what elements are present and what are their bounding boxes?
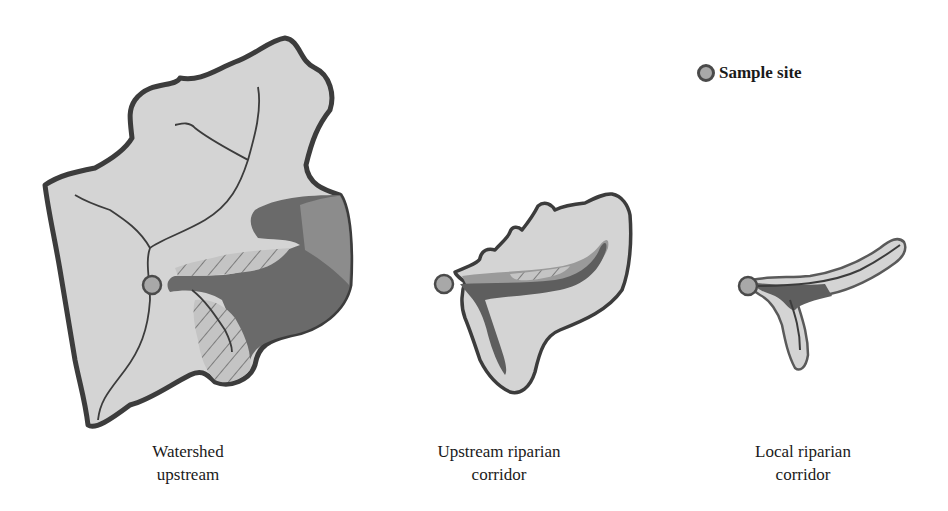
local-corridor-outline (751, 239, 905, 369)
scale-comparison-diagram (0, 0, 948, 511)
watershed-panel (45, 38, 351, 426)
sample-site-legend-icon (697, 64, 715, 82)
caption-watershed: Watershed upstream (152, 440, 223, 486)
upstream-corridor-panel (435, 194, 631, 393)
caption-line: Upstream riparian (437, 440, 560, 463)
caption-line: Local riparian (755, 440, 851, 463)
sample-site-marker (435, 275, 453, 293)
caption-line: Watershed (152, 440, 223, 463)
caption-line: corridor (755, 463, 851, 486)
caption-line: corridor (437, 463, 560, 486)
sample-site-marker (143, 276, 161, 294)
caption-upstream-corridor: Upstream riparian corridor (437, 440, 560, 486)
legend-label: Sample site (719, 63, 802, 83)
caption-line: upstream (152, 463, 223, 486)
legend: Sample site (697, 63, 802, 83)
local-corridor-panel (739, 239, 905, 369)
caption-local-corridor: Local riparian corridor (755, 440, 851, 486)
sample-site-marker (739, 277, 757, 295)
